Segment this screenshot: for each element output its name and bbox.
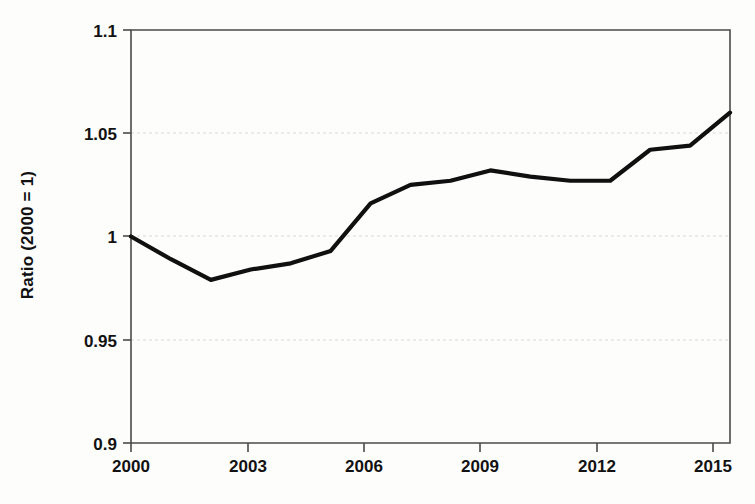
xtick-label-2000: 2000 xyxy=(112,457,150,476)
ytick-label-1-1: 1.1 xyxy=(93,22,117,41)
xtick-label-2006: 2006 xyxy=(345,457,383,476)
xtick-label-2009: 2009 xyxy=(461,457,499,476)
xtick-label-2003: 2003 xyxy=(229,457,267,476)
xtick-label-2012: 2012 xyxy=(578,457,616,476)
ytick-label-0-9: 0.9 xyxy=(93,435,117,454)
x-tick-labels: 2000 2003 2006 2009 2012 2015 xyxy=(112,457,732,476)
ytick-label-1-05: 1.05 xyxy=(84,125,117,144)
ytick-label-0-95: 0.95 xyxy=(84,332,117,351)
chart-figure: Ratio (2000 = 1) 1.1 1.05 1 0.95 xyxy=(0,0,755,504)
y-tick-labels: 1.1 1.05 1 0.95 0.9 xyxy=(84,22,117,454)
xtick-label-2015: 2015 xyxy=(694,457,732,476)
line-chart-plot: 1.1 1.05 1 0.95 0.9 2000 2003 2006 2009 … xyxy=(0,0,755,504)
plot-background xyxy=(131,30,730,443)
ytick-label-1: 1 xyxy=(108,228,117,247)
x-tick-marks xyxy=(131,443,713,452)
